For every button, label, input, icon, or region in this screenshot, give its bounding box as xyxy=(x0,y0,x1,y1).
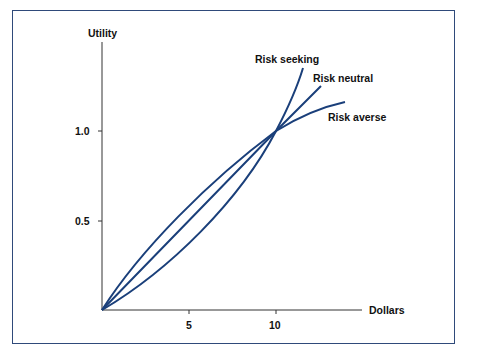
x-tick-label-10: 10 xyxy=(269,319,281,331)
risk-seeking-label: Risk seeking xyxy=(255,53,319,65)
utility-chart: Utility Dollars 1.0 0.5 5 10 Risk seekin… xyxy=(0,0,484,359)
risk-averse-label: Risk averse xyxy=(328,111,387,123)
y-tick-label-05: 0.5 xyxy=(75,215,90,227)
y-axis-label: Utility xyxy=(88,27,117,39)
x-tick-label-5: 5 xyxy=(186,319,192,331)
risk-neutral-label: Risk neutral xyxy=(313,72,373,84)
x-axis-label: Dollars xyxy=(369,304,405,316)
risk-seeking-curve xyxy=(102,68,303,310)
risk-neutral-curve xyxy=(102,86,321,310)
y-tick-label-1: 1.0 xyxy=(75,125,90,137)
